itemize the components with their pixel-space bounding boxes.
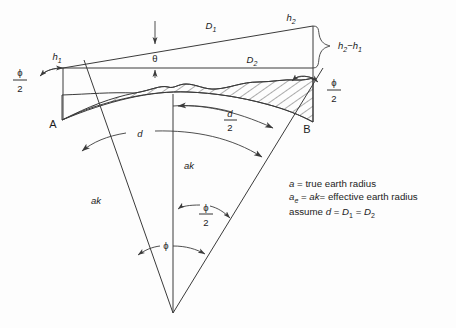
phi-label: ϕ — [163, 240, 168, 251]
h1-subscript: 1 — [58, 57, 62, 64]
legend-line2-text: = effective earth radius — [320, 191, 418, 202]
h1-diff-subscript: 1 — [358, 46, 362, 53]
d-half-numerator: d — [227, 108, 233, 119]
d-half-denominator: 2 — [227, 122, 232, 133]
legend-D2-var: D — [364, 206, 371, 217]
legend-eq1: = — [331, 206, 342, 217]
legend-line-3: assume d = D1 = D2 — [289, 206, 375, 219]
legend-line-2: ae = ak= effective earth radius — [289, 191, 418, 204]
phi-half-right-numerator: ϕ — [331, 77, 336, 88]
legend-line2-mid: = — [298, 191, 309, 202]
point-b-label: B — [303, 123, 310, 135]
phi-half-apex-numerator: ϕ — [203, 202, 208, 213]
diagram-background — [0, 0, 456, 328]
ak-center-label: ak — [184, 160, 195, 171]
point-a-label: A — [49, 118, 57, 130]
earth-curvature-diagram: θ D1 D2 h1 h2 h2−h1 ϕ — [0, 0, 456, 328]
h2-subscript: 2 — [291, 18, 296, 25]
legend-eq2: = — [353, 206, 364, 217]
phi-half-apex-denominator: 2 — [203, 217, 208, 228]
legend-assume-text: assume — [289, 206, 326, 217]
D1-subscript: 1 — [212, 26, 216, 33]
legend-D2-subscript: 2 — [371, 212, 375, 219]
ak-left-label: ak — [91, 195, 102, 206]
legend-D1-var: D — [342, 206, 349, 217]
theta-label: θ — [152, 53, 157, 64]
legend-line1-text: = true earth radius — [294, 178, 376, 189]
D2-subscript: 2 — [252, 60, 257, 67]
phi-half-left-numerator: ϕ — [17, 67, 22, 78]
phi-half-right-denominator: 2 — [331, 93, 336, 104]
diagram-canvas: θ D1 D2 h1 h2 h2−h1 ϕ — [0, 0, 456, 328]
d-arc-label: d — [137, 128, 143, 139]
legend-line-1: a = true earth radius — [289, 178, 376, 189]
phi-half-left-denominator: 2 — [17, 83, 22, 94]
